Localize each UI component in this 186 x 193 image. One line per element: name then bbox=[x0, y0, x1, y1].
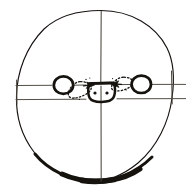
bottom-heavy-arc-group bbox=[35, 154, 152, 181]
bottom-heavy-arc bbox=[35, 154, 152, 181]
left-satellite-circle bbox=[54, 76, 73, 93]
ink-speckle bbox=[74, 97, 75, 98]
ink-speckle bbox=[79, 99, 80, 100]
ink-speckle bbox=[126, 89, 127, 90]
right-satellite-circle bbox=[132, 76, 151, 93]
center-body-dot-left bbox=[93, 91, 96, 94]
outer-circle-thin-arc bbox=[16, 11, 173, 182]
figure-root: Circle bisected by a vertical axis and c… bbox=[0, 0, 186, 193]
band-right-end-tick bbox=[172, 71, 173, 104]
center-body-dot-right bbox=[105, 91, 108, 94]
center-body-top-bar bbox=[90, 83, 114, 84]
hand-drawn-diagram bbox=[0, 0, 186, 193]
left-arrow-shaft bbox=[83, 85, 88, 86]
left-satellite-group bbox=[54, 76, 73, 93]
ink-speckle bbox=[89, 77, 90, 78]
bottom-heavy-arc-darkest bbox=[82, 180, 114, 182]
outer-circle-group bbox=[16, 11, 173, 182]
ink-speckle bbox=[116, 80, 117, 81]
ink-speckle bbox=[85, 79, 86, 80]
right-satellite-group bbox=[132, 76, 151, 93]
ink-speckle bbox=[112, 78, 113, 79]
